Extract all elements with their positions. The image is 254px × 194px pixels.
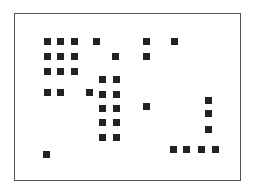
- square-marker: [99, 91, 106, 98]
- square-marker: [183, 146, 190, 153]
- square-marker: [212, 146, 219, 153]
- square-marker: [57, 89, 64, 96]
- square-marker: [57, 68, 64, 75]
- square-marker: [205, 126, 212, 133]
- square-marker: [93, 38, 100, 45]
- square-marker: [44, 53, 51, 60]
- square-marker: [86, 89, 93, 96]
- square-marker: [44, 38, 51, 45]
- square-marker: [71, 53, 78, 60]
- square-marker: [99, 76, 106, 83]
- square-marker: [44, 89, 51, 96]
- square-marker: [99, 105, 106, 112]
- square-marker: [171, 38, 178, 45]
- square-marker: [205, 97, 212, 104]
- square-marker: [113, 76, 120, 83]
- square-marker: [113, 105, 120, 112]
- square-marker: [170, 146, 177, 153]
- square-marker: [205, 110, 212, 117]
- square-marker: [112, 53, 119, 60]
- square-marker: [71, 38, 78, 45]
- square-marker: [143, 103, 150, 110]
- square-marker: [57, 38, 64, 45]
- square-marker: [113, 119, 120, 126]
- square-marker: [99, 119, 106, 126]
- square-marker: [44, 68, 51, 75]
- square-marker: [113, 91, 120, 98]
- square-marker: [43, 151, 50, 158]
- square-marker: [113, 134, 120, 141]
- square-marker: [143, 53, 150, 60]
- square-marker: [71, 68, 78, 75]
- square-marker: [99, 134, 106, 141]
- square-marker: [57, 53, 64, 60]
- square-marker: [143, 38, 150, 45]
- square-marker: [198, 146, 205, 153]
